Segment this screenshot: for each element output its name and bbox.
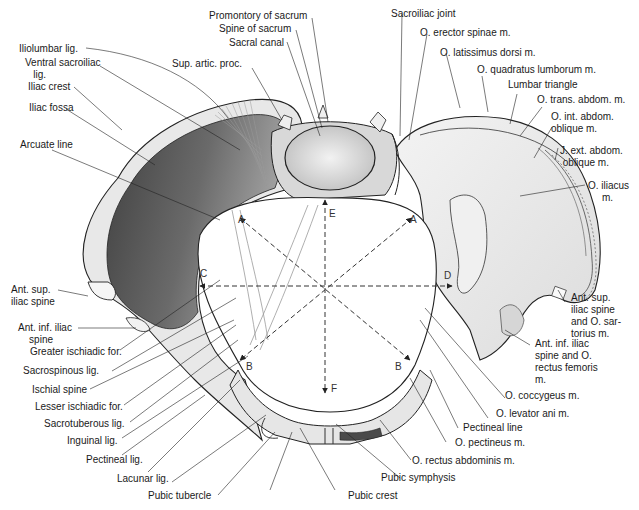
label-sacrotuberous-lig: Sacrotuberous lig. — [44, 418, 125, 430]
label-iliac-fossa: Iliac fossa — [29, 102, 73, 114]
label-sacral-canal: Sacral canal — [229, 37, 284, 49]
label-o-iliacus: O. iliacus m. — [588, 180, 629, 204]
label-o-levator-ani: O. levator ani m. — [496, 408, 569, 420]
label-pubic-symphysis: Pubic symphysis — [381, 472, 455, 484]
diameter-letter-e: E — [329, 208, 336, 219]
diameter-letter-c: C — [200, 268, 207, 279]
label-ant-sup-iliac-spine-sartorius: Ant. sup. iliac spine and O. sar- torius… — [571, 292, 621, 340]
label-o-trans-abdom: O. trans. abdom. m. — [537, 94, 625, 106]
label-ischial-spine: Ischial spine — [32, 384, 87, 396]
label-ventral-sacroiliac-lig: Ventral sacroiliac lig. — [25, 57, 101, 81]
label-o-rectus-abdominis: O. rectus abdominis m. — [412, 455, 515, 467]
label-iliolumbar-lig: Iliolumbar lig. — [19, 43, 78, 55]
label-o-pectineus: O. pectineus m. — [455, 437, 525, 449]
diameter-letter-b-right: B — [395, 361, 402, 372]
label-pubic-crest: Pubic crest — [348, 490, 397, 502]
label-sacrospinous-lig: Sacrospinous lig. — [23, 365, 99, 377]
label-ant-inf-iliac-spine: Ant. inf. iliac spine — [18, 322, 72, 346]
label-o-ext-abdom-oblique: J. ext. abdom. oblique m. — [560, 145, 623, 169]
diameter-letter-a-left: A — [238, 214, 245, 225]
label-o-latissimus-dorsi: O. latissimus dorsi m. — [440, 47, 536, 59]
label-promontory-of-sacrum: Promontory of sacrum — [209, 10, 307, 22]
label-o-quadratus-lumborum: O. quadratus lumborum m. — [477, 64, 596, 76]
label-lumbar-triangle: Lumbar triangle — [508, 79, 577, 91]
label-sup-artic-proc: Sup. artic. proc. — [172, 58, 242, 70]
label-ant-inf-iliac-spine-rectus-femoris: Ant. inf. iliac spine and O. rectus femo… — [535, 338, 598, 386]
label-greater-ischiadic-foramen: Greater ischiadic for. — [30, 346, 122, 358]
label-inguinal-lig: Inguinal lig. — [67, 435, 118, 447]
label-ant-sup-iliac-spine: Ant. sup. iliac spine — [11, 284, 55, 308]
label-sacroiliac-joint: Sacroiliac joint — [391, 8, 455, 20]
label-o-int-abdom-oblique: O. int. abdom. oblique m. — [551, 111, 614, 135]
diameter-letter-a-right: A — [410, 214, 417, 225]
label-pubic-tubercle: Pubic tubercle — [148, 490, 211, 502]
label-lacunar-lig: Lacunar lig. — [117, 473, 169, 485]
label-pectineal-line: Pectineal line — [463, 422, 522, 434]
label-arcuate-line: Arcuate line — [20, 139, 73, 151]
label-o-erector-spinae: O. erector spinae m. — [420, 27, 511, 39]
label-pectineal-lig: Pectineal lig. — [86, 454, 143, 466]
sacrum — [271, 105, 399, 200]
label-o-coccygeus: O. coccygeus m. — [505, 390, 579, 402]
label-lesser-ischiadic-foramen: Lesser ischiadic for. — [35, 401, 123, 413]
label-iliac-crest: Iliac crest — [28, 81, 70, 93]
diameter-letter-f: F — [331, 383, 337, 394]
diameter-letter-b-left: B — [246, 361, 253, 372]
label-spine-of-sacrum: Spine of sacrum — [219, 23, 291, 35]
diameter-letter-d: D — [444, 270, 451, 281]
